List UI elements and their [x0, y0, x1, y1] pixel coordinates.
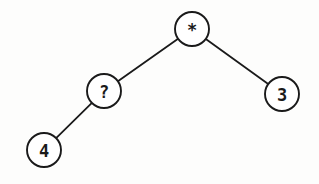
node-label-number: 3: [277, 85, 287, 105]
tree-node-left-left: 4: [27, 133, 61, 167]
node-label-number: 4: [39, 141, 49, 161]
tree-node-right: 3: [265, 77, 299, 111]
diagram-canvas: * ? 3 4: [0, 0, 319, 184]
edge-root-left: [118, 39, 178, 81]
tree-diagram: * ? 3 4: [0, 0, 319, 184]
nodes: * ? 3 4: [27, 12, 299, 167]
edge-root-right: [206, 39, 268, 84]
edge-left-leftleft: [56, 103, 92, 138]
tree-node-root: *: [175, 12, 209, 46]
tree-node-left: ?: [87, 74, 121, 108]
node-label-unknown: ?: [99, 82, 109, 102]
node-label-operator: *: [187, 20, 197, 40]
